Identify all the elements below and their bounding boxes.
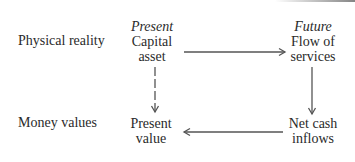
edge-capital-to-present-value-dashed	[152, 67, 159, 112]
edge-netcash-to-present-value	[184, 129, 283, 136]
edge-capital-to-flow	[184, 49, 285, 56]
edge-flow-to-netcash	[309, 67, 316, 114]
arrows-layer	[0, 0, 355, 162]
